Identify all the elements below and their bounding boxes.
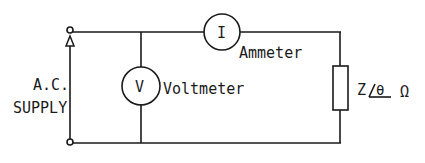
ohm-unit-icon: Ω <box>400 83 409 101</box>
voltmeter-symbol: V <box>135 78 144 96</box>
ammeter-symbol: I <box>217 24 226 42</box>
voltmeter-label: Voltmeter <box>163 80 244 98</box>
ammeter-label: Ammeter <box>239 44 302 62</box>
impedance-label-z: Z <box>357 81 366 99</box>
supply-label-line1: A.C. <box>33 76 69 94</box>
circuit-labels: A.C. SUPPLY V Voltmeter I Ammeter Z θ Ω <box>0 0 425 163</box>
impedance-angle: θ <box>376 82 384 98</box>
supply-label-line2: SUPPLY <box>13 99 67 117</box>
